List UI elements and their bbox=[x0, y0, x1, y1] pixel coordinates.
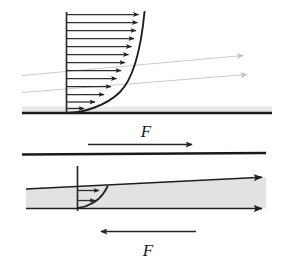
upper-boundary-layer-panel bbox=[22, 12, 272, 113]
velocity-vector-group bbox=[67, 15, 139, 109]
wall-shadow-band bbox=[22, 107, 272, 113]
figure-root: F F bbox=[0, 0, 283, 262]
lower-wedge-panel: F bbox=[26, 166, 266, 260]
fluid-film-wedge bbox=[26, 177, 266, 209]
streamline-arrow-icon-lower bbox=[22, 75, 247, 93]
moving-plate-panel: F bbox=[22, 122, 266, 155]
boundary-layer-figure: F F bbox=[0, 0, 283, 262]
force-label-bottom: F bbox=[142, 241, 154, 260]
upper-moving-plate bbox=[22, 153, 266, 155]
force-label-top: F bbox=[140, 122, 152, 141]
